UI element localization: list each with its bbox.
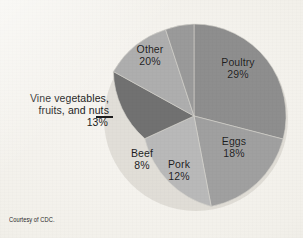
pie-label-pork: Pork 12% xyxy=(157,159,201,182)
pie-label-pork-name: Pork xyxy=(157,159,201,171)
pie-label-vine-vegetables: Vine vegetables, fruits, and nuts 13% xyxy=(3,92,109,128)
pie-label-eggs-name: Eggs xyxy=(209,136,259,148)
pie-label-other-percent: 20% xyxy=(118,56,182,68)
pie-label-beef-name: Beef xyxy=(122,148,162,160)
pie-label-eggs-percent: 18% xyxy=(209,148,259,160)
pie-label-other: Other 20% xyxy=(118,44,182,67)
pie-label-other-name: Other xyxy=(118,44,182,56)
pie-label-eggs: Eggs 18% xyxy=(209,136,259,159)
pie-label-poultry: Poultry 29% xyxy=(206,57,270,80)
pie-label-vine-vegetables-line1: Vine vegetables, xyxy=(3,92,109,104)
pie-label-pork-percent: 12% xyxy=(157,171,201,183)
pie-label-vine-vegetables-percent: 13% xyxy=(3,116,109,128)
pie-label-vine-vegetables-line2: fruits, and nuts xyxy=(3,104,109,116)
pie-label-beef-percent: 8% xyxy=(122,160,162,172)
chart-page: Other 20% Poultry 29% Eggs 18% Pork 12% … xyxy=(0,0,303,238)
pie-label-poultry-percent: 29% xyxy=(206,69,270,81)
pie-chart: Other 20% Poultry 29% Eggs 18% Pork 12% … xyxy=(0,0,303,238)
source-caption: Courtesy of CDC. xyxy=(9,216,55,224)
pie-label-poultry-name: Poultry xyxy=(206,57,270,69)
pie-label-beef: Beef 8% xyxy=(122,148,162,171)
